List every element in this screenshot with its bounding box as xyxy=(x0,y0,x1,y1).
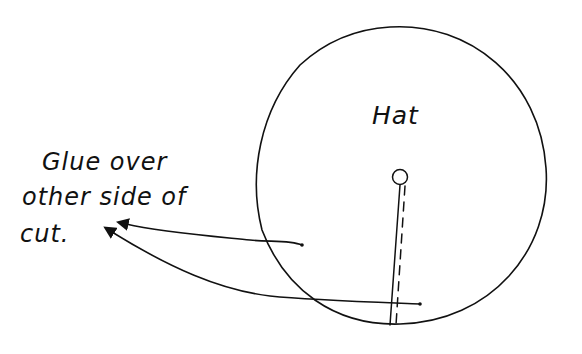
note-line-2: other side of xyxy=(22,183,189,211)
hat-label: Hat xyxy=(372,101,419,130)
cut-line xyxy=(390,185,400,325)
center-hole xyxy=(393,170,408,185)
arrow-start-dot xyxy=(300,243,304,247)
arrow-from-inside-circle xyxy=(126,224,302,245)
hat-circle xyxy=(256,27,546,324)
hat-diagram: Hat Glue over other side of cut. xyxy=(0,0,582,354)
note-line-1: Glue over xyxy=(42,148,169,176)
arrow-from-bottom-cut xyxy=(112,232,420,304)
note-line-3: cut. xyxy=(20,220,69,248)
arrow-start-dot xyxy=(418,302,422,306)
